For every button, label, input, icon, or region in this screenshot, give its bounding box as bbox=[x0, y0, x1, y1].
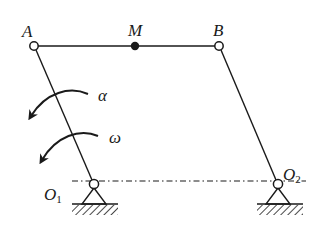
label-alpha: α bbox=[98, 86, 108, 105]
label-a: A bbox=[21, 22, 33, 41]
label-o1: O1 bbox=[44, 185, 62, 205]
label-o2: O2 bbox=[283, 165, 301, 185]
point-m bbox=[131, 42, 139, 50]
support-o1 bbox=[72, 179, 118, 215]
label-m: M bbox=[127, 21, 143, 40]
label-b: B bbox=[213, 21, 224, 40]
label-omega: ω bbox=[109, 128, 121, 147]
omega-arrow-icon bbox=[42, 133, 98, 160]
link-o1a bbox=[36, 50, 92, 180]
four-bar-linkage-diagram: A M B α ω O1 O2 bbox=[0, 0, 322, 243]
pin-a bbox=[30, 42, 38, 50]
pin-b bbox=[215, 42, 223, 50]
link-o2b bbox=[221, 50, 276, 180]
